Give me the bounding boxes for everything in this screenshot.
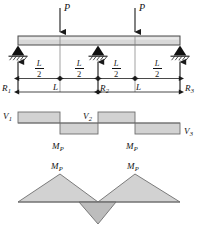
moment-label-right-shear: MP	[126, 142, 137, 151]
shear-block-negative-1	[60, 123, 98, 134]
beam-member	[18, 36, 180, 45]
moment-diagram	[18, 174, 180, 224]
support-left	[9, 46, 28, 61]
shear-label-1: V1	[3, 112, 12, 121]
dimension-label-half-4: L 2	[150, 59, 164, 78]
load-label-1: P	[64, 3, 70, 13]
figure-canvas	[0, 0, 198, 225]
shear-label-2: V2	[83, 112, 92, 121]
shear-diagram	[18, 112, 180, 134]
reaction-label-1: R1	[2, 84, 11, 93]
moment-peak-label-left: MP	[51, 162, 62, 171]
span-label-1: L	[53, 83, 58, 92]
shear-block-positive-2	[98, 112, 135, 123]
load-label-2: P	[139, 3, 145, 13]
moment-lobe-negative	[79, 202, 116, 224]
shear-block-negative-2	[135, 123, 180, 134]
dimension-label-half-3: L 2	[109, 59, 123, 78]
dimension-label-half-2: L 2	[72, 59, 86, 78]
support-middle	[89, 46, 108, 61]
beam-analysis-figure: P P L 2 L 2 L 2 L 2 R1 R2 R3 L L V1 V2 V…	[0, 0, 198, 225]
span-label-2: L	[136, 83, 141, 92]
reaction-label-3: R3	[185, 84, 194, 93]
dimension-label-half-1: L 2	[32, 59, 46, 78]
shear-label-3: V3	[184, 127, 193, 136]
moment-peak-label-right: MP	[127, 162, 138, 171]
support-right	[171, 46, 190, 61]
shear-block-positive-1	[18, 112, 60, 123]
moment-label-left-shear: MP	[52, 142, 63, 151]
moment-lobe-right	[98, 174, 180, 202]
reaction-label-2: R2	[100, 84, 109, 93]
moment-lobe-left	[18, 174, 98, 202]
